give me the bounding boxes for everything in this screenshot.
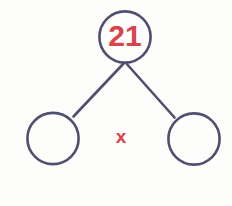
part-circle-left[interactable] (27, 113, 78, 164)
connector-line-right (126, 63, 175, 118)
number-bond-diagram: 21 x (0, 0, 232, 206)
connector-line-left (74, 63, 125, 117)
whole-value-label: 21 (99, 21, 151, 51)
multiplication-symbol: x (106, 127, 136, 146)
part-circle-right[interactable] (168, 113, 219, 164)
